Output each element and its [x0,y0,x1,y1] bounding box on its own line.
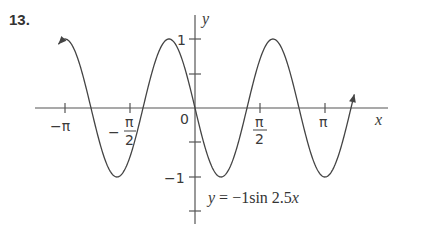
svg-text:2: 2 [255,131,264,147]
svg-text:2: 2 [125,132,134,148]
x-tick-label-pi: π [319,114,328,130]
y-tick-label-neg-1: −1 [164,170,185,186]
x-tick-label-pi-half: π 2 [253,114,267,147]
sine-graph: 13. −π − π 2 π 2 π x y 0 1 −1 y=−1sin [0,0,421,239]
x-axis-label: x [374,111,382,128]
svg-text:−: − [108,124,120,140]
arrow-right-icon [349,94,356,103]
x-tick-label-neg-pi: −π [50,118,71,134]
svg-text:π: π [125,114,134,130]
origin-label: 0 [180,111,189,127]
y-tick-label-1: 1 [177,32,186,48]
arrow-left-icon [58,36,66,44]
problem-number: 13. [9,11,30,28]
svg-text:π: π [255,114,264,130]
equation-label: y=−1sin 2.5x [206,189,299,207]
x-tick-label-neg-pi-half: − π 2 [108,114,136,148]
y-axis-label: y [200,10,210,28]
